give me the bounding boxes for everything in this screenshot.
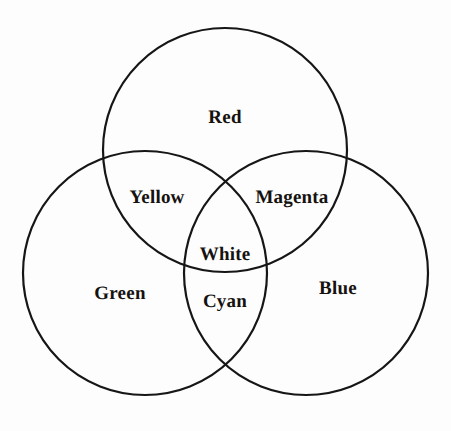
- label-yellow: Yellow: [129, 188, 184, 207]
- label-cyan: Cyan: [203, 292, 247, 311]
- venn-circles-canvas: [0, 0, 451, 431]
- label-magenta: Magenta: [255, 188, 328, 207]
- label-white: White: [200, 245, 251, 264]
- label-green: Green: [94, 284, 145, 303]
- venn-diagram: Red Yellow Magenta White Cyan Green Blue: [0, 0, 451, 431]
- label-blue: Blue: [319, 279, 357, 298]
- label-red: Red: [208, 108, 241, 127]
